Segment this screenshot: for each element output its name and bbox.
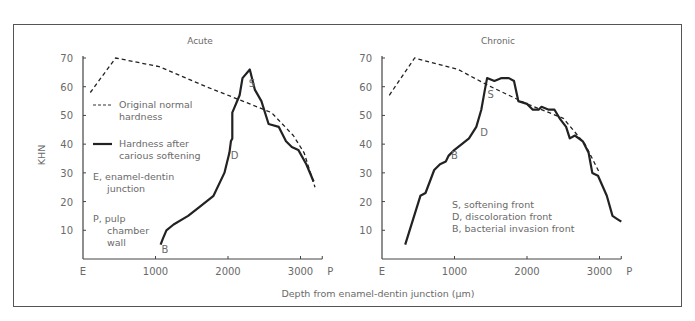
annotation-front: B, bacterial invasion front — [452, 223, 575, 234]
chart-title: Chronic — [481, 36, 515, 46]
front-label-s: S — [488, 89, 494, 100]
front-label-d: D — [231, 150, 239, 161]
x-tick-label: 2000 — [215, 266, 240, 277]
legend-label-normal: Original normal — [119, 99, 192, 110]
y-tick-label: 70 — [60, 53, 73, 64]
front-label-b: B — [161, 244, 168, 255]
annotation-p: P, pulp — [93, 213, 126, 224]
x-tick-label: E — [379, 266, 385, 277]
legend-label-softened: Hardness after — [119, 138, 189, 149]
svg-text:hardness: hardness — [119, 111, 162, 122]
normal-hardness-line — [90, 58, 315, 187]
normal-hardness-line — [389, 58, 599, 173]
annotation-e: E, enamel-dentin — [93, 171, 174, 182]
y-tick-label: 30 — [359, 168, 372, 179]
x-tick-label: 1000 — [143, 266, 168, 277]
svg-text:carious softening: carious softening — [119, 150, 201, 161]
y-tick-label: 40 — [359, 139, 372, 150]
front-label-b: B — [451, 150, 458, 161]
svg-text:wall: wall — [107, 237, 126, 248]
x-tick-label: E — [80, 266, 86, 277]
y-tick-label: 40 — [60, 139, 73, 150]
y-tick-label: 70 — [359, 53, 372, 64]
chart-title: Acute — [187, 36, 213, 46]
y-tick-label: 10 — [60, 225, 73, 236]
x-axis-title: Depth from enamel-dentin junction (μm) — [281, 288, 474, 299]
x-tick-label: 1000 — [442, 266, 467, 277]
figure-canvas: Acute10203040506070E100020003000PSDBChro… — [0, 0, 695, 321]
front-label-s: S — [249, 78, 255, 89]
y-tick-label: 60 — [60, 82, 73, 93]
y-tick-label: 50 — [60, 110, 73, 121]
svg-text:chamber: chamber — [107, 225, 149, 236]
svg-text:junction: junction — [106, 183, 145, 194]
annotation-front: D, discoloration front — [452, 211, 552, 222]
y-axis-title: KHN — [36, 145, 47, 165]
y-tick-label: 30 — [60, 168, 73, 179]
annotation-front: S, softening front — [452, 199, 534, 210]
front-label-d: D — [480, 127, 488, 138]
y-tick-label: 20 — [359, 197, 372, 208]
y-tick-label: 10 — [359, 225, 372, 236]
x-tick-label: P — [626, 266, 632, 277]
x-tick-label: P — [327, 266, 333, 277]
y-tick-label: 50 — [359, 110, 372, 121]
x-tick-label: 2000 — [514, 266, 539, 277]
x-tick-label: 3000 — [587, 266, 612, 277]
y-tick-label: 20 — [60, 197, 73, 208]
y-tick-label: 60 — [359, 82, 372, 93]
x-tick-label: 3000 — [288, 266, 313, 277]
